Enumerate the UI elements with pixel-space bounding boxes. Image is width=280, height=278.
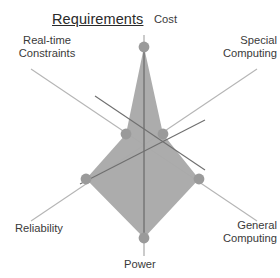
data-point-special-computing <box>158 129 169 140</box>
data-point-realtime-constraints <box>121 129 132 140</box>
data-point-cost <box>139 42 150 53</box>
axis-label-general-computing-line1: General <box>223 219 277 232</box>
radar-chart-figure: Requirements Cost Special Computing Gene… <box>0 0 280 278</box>
axis-label-special-computing-line2: Computing <box>223 47 277 60</box>
axis-label-cost-text: Cost <box>154 13 177 26</box>
axis-label-reliability-text: Reliability <box>15 222 63 235</box>
data-point-general-computing <box>194 174 205 185</box>
axis-label-general-computing: General Computing <box>223 219 277 244</box>
axis-label-special-computing-line1: Special <box>223 34 277 47</box>
axis-label-power: Power <box>124 258 156 271</box>
axis-label-realtime-constraints: Real-time Constraints <box>8 34 86 59</box>
axis-label-reliability: Reliability <box>15 222 63 235</box>
axis-label-realtime-line1: Real-time <box>8 34 86 47</box>
axis-label-realtime-line2: Constraints <box>8 47 86 60</box>
chart-title: Requirements <box>52 11 143 27</box>
radar-data-polygon <box>86 47 199 238</box>
data-point-power <box>139 233 150 244</box>
axis-label-special-computing: Special Computing <box>223 34 277 59</box>
axis-label-power-text: Power <box>124 258 156 271</box>
axis-label-cost: Cost <box>154 13 177 26</box>
axis-label-general-computing-line2: Computing <box>223 232 277 245</box>
data-point-reliability <box>81 174 92 185</box>
